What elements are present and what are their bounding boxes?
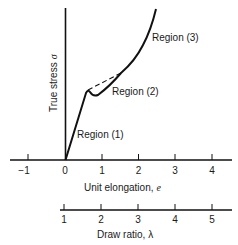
stress-strain-diagram: −1 0 1 2 3 4 Unit elongation,e 1 2 3 4 5… (0, 0, 238, 245)
svg-text:3: 3 (135, 214, 141, 225)
svg-text:3: 3 (172, 165, 178, 176)
svg-text:2: 2 (98, 214, 104, 225)
x-axis-ticks (28, 154, 212, 160)
region-3-label: Region (3) (152, 32, 199, 43)
draw-ratio-ticks (64, 204, 212, 210)
region-2-label: Region (2) (112, 86, 159, 97)
svg-text:2: 2 (136, 165, 142, 176)
region-1-label: Region (1) (77, 129, 124, 140)
svg-text:5: 5 (209, 214, 215, 225)
svg-text:4: 4 (209, 165, 215, 176)
x-axis-tick-labels: −1 0 1 2 3 4 (18, 165, 215, 176)
y-axis-label: True stressσ (48, 53, 59, 112)
svg-text:−1: −1 (18, 165, 30, 176)
x-axis-label: Unit elongation,e (84, 182, 162, 193)
draw-ratio-tick-labels: 1 2 3 4 5 (61, 214, 215, 225)
svg-text:4: 4 (172, 214, 178, 225)
svg-text:1: 1 (99, 165, 105, 176)
svg-text:1: 1 (61, 214, 67, 225)
svg-text:0: 0 (62, 165, 68, 176)
draw-ratio-label: Draw ratio,λ (97, 229, 153, 240)
